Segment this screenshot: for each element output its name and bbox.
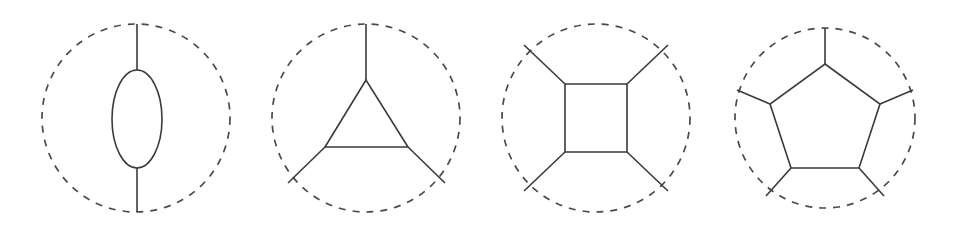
pentagon-external-leg-5 <box>737 90 770 104</box>
triangle-external-leg-3 <box>408 147 445 183</box>
triangle-loop-polygon <box>325 80 408 147</box>
pentagon-external-leg-2 <box>880 90 913 104</box>
feynman-diagram-svg <box>0 0 953 230</box>
box-external-leg-1 <box>524 45 565 84</box>
box-external-leg-4 <box>524 152 565 191</box>
bubble-diagram <box>42 24 230 212</box>
box-cut-circle <box>502 24 690 212</box>
box-diagram <box>502 24 690 212</box>
bubble-loop-ellipse <box>112 70 162 168</box>
pentagon-external-leg-4 <box>766 168 791 196</box>
figure-container <box>0 0 953 230</box>
pentagon-diagram <box>735 28 915 208</box>
triangle-external-leg-2 <box>288 147 325 183</box>
box-external-leg-3 <box>627 152 668 191</box>
box-loop-polygon <box>565 84 627 152</box>
triangle-diagram <box>272 24 460 212</box>
diagrams-layer <box>42 24 915 212</box>
box-external-leg-2 <box>627 45 668 84</box>
pentagon-external-leg-3 <box>859 168 884 196</box>
pentagon-loop-polygon <box>770 64 880 168</box>
bubble-cut-circle <box>42 24 230 212</box>
